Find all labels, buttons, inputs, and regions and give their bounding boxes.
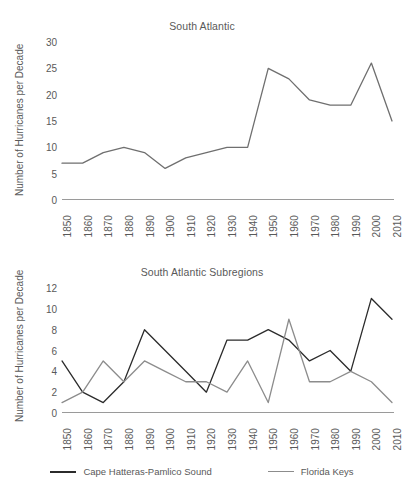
- series-line: [62, 63, 392, 168]
- y-axis-tick: 8: [51, 324, 57, 335]
- plot-area-top: 0510152025301850186018701880189019001910…: [62, 42, 392, 200]
- chart-panel-subregions: South Atlantic Subregions Number of Hurr…: [0, 252, 404, 462]
- x-axis-tick: 1930: [227, 204, 238, 226]
- series-line: [62, 319, 392, 402]
- data-lines: [62, 42, 392, 200]
- x-axis-tick: 1960: [289, 204, 300, 226]
- x-axis-tick: 2010: [392, 204, 403, 226]
- x-axis-tick: 1860: [83, 417, 94, 439]
- x-axis-tick: 2000: [371, 204, 382, 226]
- hurricane-figure: South Atlantic Number of Hurricanes per …: [0, 0, 404, 492]
- legend-label: Florida Keys: [301, 466, 354, 477]
- x-axis-tick: 1950: [268, 417, 279, 439]
- x-axis-tick: 1970: [310, 417, 321, 439]
- x-axis-tick: 1880: [124, 417, 135, 439]
- chart-title-top: South Atlantic: [0, 20, 404, 32]
- y-axis-tick: 20: [46, 89, 57, 100]
- chart-title-bottom: South Atlantic Subregions: [0, 266, 404, 278]
- x-axis-tick: 2000: [371, 417, 382, 439]
- x-axis-tick: 1870: [103, 417, 114, 439]
- data-lines: [62, 288, 392, 413]
- x-axis-tick: 1920: [206, 417, 217, 439]
- x-axis-tick: 2010: [392, 417, 403, 439]
- x-axis-tick: 1860: [83, 204, 94, 226]
- x-axis-tick: 1900: [165, 204, 176, 226]
- x-axis-tick: 1850: [62, 204, 73, 226]
- x-axis-tick: 1920: [206, 204, 217, 226]
- y-axis-tick: 25: [46, 63, 57, 74]
- x-axis-tick: 1880: [124, 204, 135, 226]
- legend-swatch-icon: [268, 471, 294, 472]
- x-axis-tick: 1940: [248, 204, 259, 226]
- y-axis-tick: 2: [51, 387, 57, 398]
- series-line: [62, 298, 392, 402]
- y-axis-tick: 4: [51, 366, 57, 377]
- legend-label: Cape Hatteras-Pamlico Sound: [83, 466, 211, 477]
- y-axis-tick: 15: [46, 116, 57, 127]
- legend-entry[interactable]: Florida Keys: [268, 466, 354, 477]
- y-axis-label-bottom: Number of Hurricanes per Decade: [14, 270, 25, 422]
- x-axis-tick: 1990: [351, 417, 362, 439]
- x-axis-tick: 1980: [330, 204, 341, 226]
- x-axis-tick: 1980: [330, 417, 341, 439]
- x-axis-tick: 1910: [186, 204, 197, 226]
- x-axis-tick: 1850: [62, 417, 73, 439]
- y-axis-tick: 6: [51, 345, 57, 356]
- x-axis-tick: 1940: [248, 417, 259, 439]
- x-axis-tick: 1910: [186, 417, 197, 439]
- y-axis-tick: 5: [51, 168, 57, 179]
- chart-panel-south-atlantic: South Atlantic Number of Hurricanes per …: [0, 0, 404, 252]
- x-axis-tick: 1890: [145, 417, 156, 439]
- y-axis-tick: 0: [51, 195, 57, 206]
- y-axis-label-top: Number of Hurricanes per Decade: [14, 44, 25, 196]
- x-axis-tick: 1930: [227, 417, 238, 439]
- x-axis-tick: 1870: [103, 204, 114, 226]
- legend-entry[interactable]: Cape Hatteras-Pamlico Sound: [50, 466, 211, 477]
- y-axis-tick: 0: [51, 408, 57, 419]
- legend-swatch-icon: [50, 471, 76, 473]
- x-axis-tick: 1900: [165, 417, 176, 439]
- chart-legend: Cape Hatteras-Pamlico SoundFlorida Keys: [0, 466, 404, 477]
- plot-area-bottom: 0246810121850186018701880189019001910192…: [62, 288, 392, 413]
- x-axis-tick: 1990: [351, 204, 362, 226]
- y-axis-tick: 10: [46, 142, 57, 153]
- y-axis-tick: 12: [46, 283, 57, 294]
- x-axis-tick: 1960: [289, 417, 300, 439]
- x-axis-tick: 1890: [145, 204, 156, 226]
- x-axis-tick: 1950: [268, 204, 279, 226]
- y-axis-tick: 30: [46, 37, 57, 48]
- y-axis-tick: 10: [46, 303, 57, 314]
- x-axis-tick: 1970: [310, 204, 321, 226]
